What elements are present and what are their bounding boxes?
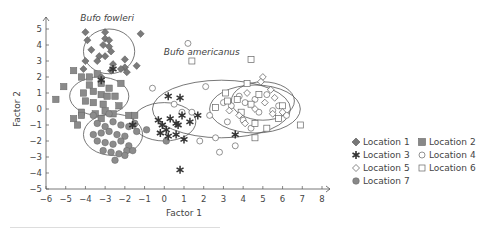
data-point [248, 101, 254, 107]
data-point [104, 93, 110, 99]
data-point [122, 152, 129, 159]
y-tick-label: −2 [29, 136, 42, 146]
data-point [280, 103, 286, 109]
x-tick-label: 7 [300, 194, 305, 204]
data-point [244, 90, 251, 97]
data-point [271, 94, 278, 101]
data-point [216, 149, 222, 155]
data-point [252, 120, 258, 126]
x-tick-label: 0 [162, 194, 167, 204]
data-point [261, 99, 268, 106]
data-point [224, 119, 230, 125]
data-point [132, 112, 138, 118]
data-point [116, 103, 122, 109]
data-point [118, 80, 124, 86]
diamond-open-icon [352, 164, 360, 172]
y-tick-label: 1 [37, 88, 42, 98]
data-point [53, 96, 59, 102]
data-point [157, 129, 164, 137]
diamond-filled-icon [352, 138, 360, 146]
y-tick-label: 4 [37, 40, 42, 50]
data-point [185, 40, 191, 46]
data-point [78, 112, 84, 118]
circle-filled-icon [352, 177, 360, 185]
data-point [108, 149, 115, 156]
x-tick-label: −1 [138, 194, 151, 204]
x-tick-label: −5 [59, 194, 72, 204]
square-open-icon [418, 164, 426, 172]
data-point [80, 65, 87, 72]
y-tick-label: 5 [37, 24, 42, 34]
species-annotation: Bufo americanus [164, 47, 240, 57]
data-point [171, 101, 177, 107]
data-point [121, 56, 128, 63]
y-tick-label: −5 [29, 184, 42, 194]
legend-item-location-3: Location 3 [352, 150, 418, 160]
x-tick-label: 5 [260, 194, 265, 204]
data-point [133, 128, 140, 135]
x-tick-label: 1 [181, 194, 186, 204]
data-point [114, 131, 121, 138]
data-point [118, 122, 125, 129]
y-axis-label: Factor 2 [12, 91, 22, 127]
data-point [276, 116, 282, 122]
data-point [213, 104, 219, 110]
data-point [106, 85, 112, 91]
data-point [248, 56, 254, 62]
y-tick-label: 0 [37, 104, 42, 114]
data-point [232, 143, 238, 149]
x-tick-label: −6 [40, 194, 53, 204]
legend-item-location-5: Location 5 [352, 163, 418, 173]
data-point [197, 138, 203, 144]
data-point [100, 147, 107, 154]
legend-item-location-2: Location 2 [418, 137, 480, 147]
data-point [224, 98, 230, 104]
legend-item-location-7: Location 7 [352, 176, 418, 186]
data-point [264, 92, 270, 98]
y-tick-label: −3 [29, 152, 42, 162]
data-point [78, 74, 84, 80]
y-tick-label: 3 [37, 56, 42, 66]
legend-item-location-6: Location 6 [418, 163, 480, 173]
divider [10, 227, 220, 228]
x-tick-label: −4 [79, 194, 92, 204]
data-point [88, 46, 95, 53]
x-tick-label: −2 [119, 194, 132, 204]
data-point [102, 53, 109, 60]
data-point [86, 82, 92, 88]
data-point [118, 138, 125, 145]
data-point [106, 111, 113, 118]
data-point [149, 85, 155, 91]
data-point [110, 141, 117, 148]
data-point [137, 30, 144, 37]
data-point [82, 98, 88, 104]
species-annotation: Bufo fowleri [80, 13, 134, 23]
data-point [61, 83, 67, 89]
star-icon [352, 151, 360, 159]
x-tick-label: −3 [99, 194, 112, 204]
data-point [203, 84, 209, 90]
data-point [100, 41, 107, 48]
confidence-ellipse [133, 103, 196, 141]
data-point [116, 151, 123, 158]
data-point [189, 109, 195, 115]
data-point [106, 128, 113, 135]
data-point [86, 74, 92, 80]
x-axis-label: Factor 1 [166, 208, 202, 218]
data-point [102, 139, 109, 146]
x-tick-label: 8 [319, 194, 324, 204]
data-point [94, 120, 101, 127]
circle-open-icon [418, 151, 426, 159]
data-point [82, 29, 89, 36]
data-point [297, 122, 303, 128]
data-point [133, 62, 140, 69]
data-point [90, 88, 96, 94]
data-point [242, 100, 248, 106]
data-point [181, 135, 188, 143]
legend-item-location-4: Location 4 [418, 150, 480, 160]
data-point [112, 157, 119, 164]
data-point [94, 138, 101, 145]
data-point [165, 92, 172, 100]
